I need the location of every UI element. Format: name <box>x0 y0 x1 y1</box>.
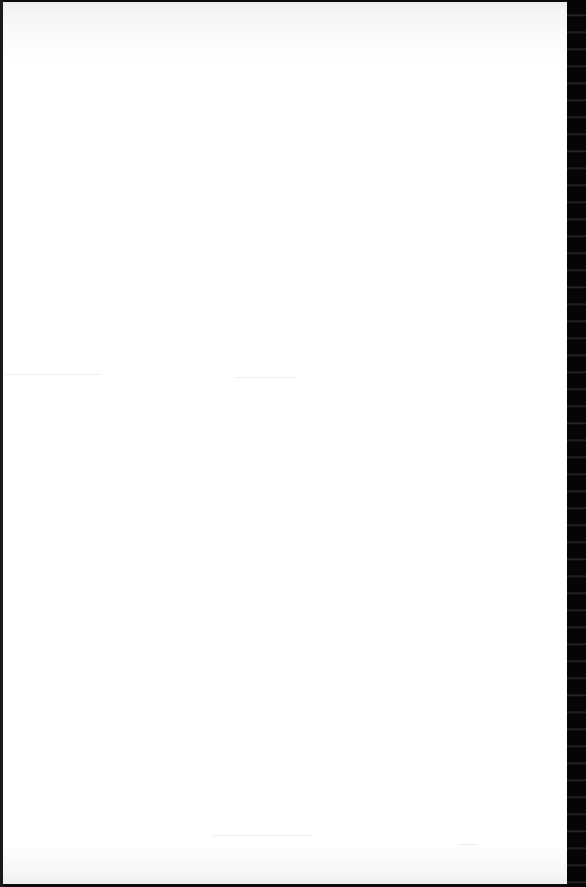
blank-page <box>3 2 567 884</box>
faint-scan-artifact <box>5 374 100 375</box>
faint-scan-artifact <box>213 835 313 836</box>
scan-right-margin <box>567 0 586 887</box>
scanned-document <box>0 0 586 887</box>
faint-scan-artifact <box>235 377 295 378</box>
faint-scan-artifact <box>458 844 478 845</box>
